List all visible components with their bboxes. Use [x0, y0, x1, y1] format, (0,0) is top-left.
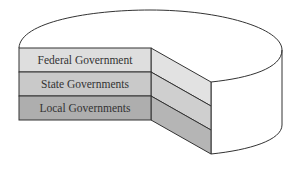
federal-label: Federal Government	[38, 54, 134, 66]
layer-cake-diagram: Federal Government State Governments Loc…	[0, 0, 297, 171]
state-label: State Governments	[41, 78, 129, 90]
local-label: Local Governments	[39, 102, 131, 114]
